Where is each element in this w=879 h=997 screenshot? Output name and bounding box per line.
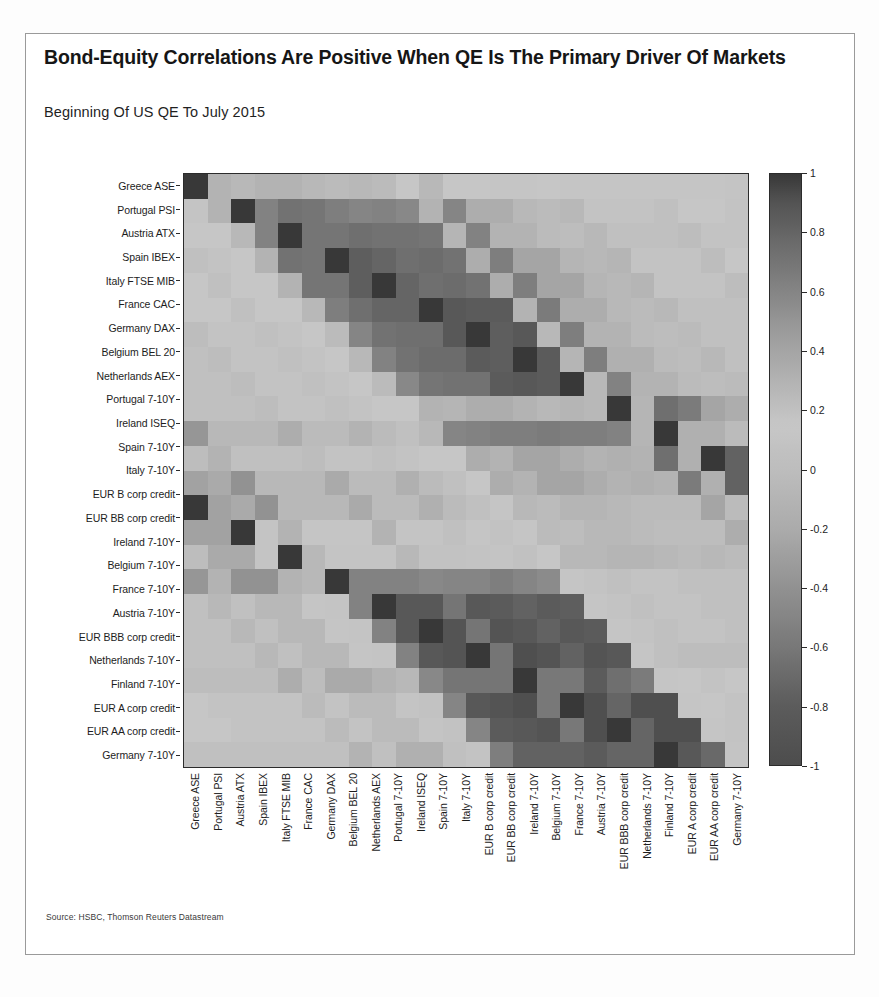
heatmap-cell[interactable] [419,594,443,619]
heatmap-cell[interactable] [208,718,232,743]
heatmap-cell[interactable] [584,643,608,668]
heatmap-cell[interactable] [278,174,302,199]
heatmap-cell[interactable] [560,298,584,323]
heatmap-cell[interactable] [325,545,349,570]
heatmap-cell[interactable] [349,396,373,421]
heatmap-cell[interactable] [466,471,490,496]
heatmap-cell[interactable] [302,199,326,224]
heatmap-cell[interactable] [537,446,561,471]
heatmap-cell[interactable] [325,742,349,767]
heatmap-cell[interactable] [396,471,420,496]
heatmap-cell[interactable] [678,322,702,347]
heatmap-cell[interactable] [255,396,279,421]
heatmap-cell[interactable] [349,298,373,323]
heatmap-cell[interactable] [302,298,326,323]
heatmap-cell[interactable] [372,619,396,644]
heatmap-cell[interactable] [560,569,584,594]
heatmap-cell[interactable] [490,742,514,767]
heatmap-cell[interactable] [466,199,490,224]
heatmap-cell[interactable] [466,619,490,644]
heatmap-cell[interactable] [654,619,678,644]
heatmap-cell[interactable] [231,223,255,248]
heatmap-cell[interactable] [537,569,561,594]
heatmap-cell[interactable] [325,718,349,743]
heatmap-cell[interactable] [443,372,467,397]
heatmap-cell[interactable] [255,471,279,496]
heatmap-cell[interactable] [184,421,208,446]
heatmap-cell[interactable] [419,569,443,594]
heatmap-cell[interactable] [584,421,608,446]
heatmap-cell[interactable] [466,298,490,323]
heatmap-cell[interactable] [560,174,584,199]
heatmap-cell[interactable] [513,495,537,520]
heatmap-cell[interactable] [607,569,631,594]
heatmap-cell[interactable] [490,495,514,520]
heatmap-cell[interactable] [325,569,349,594]
heatmap-cell[interactable] [255,569,279,594]
heatmap-grid[interactable] [184,174,748,767]
heatmap-cell[interactable] [725,372,749,397]
heatmap-cell[interactable] [513,248,537,273]
heatmap-cell[interactable] [419,520,443,545]
heatmap-cell[interactable] [654,668,678,693]
heatmap-cell[interactable] [466,248,490,273]
heatmap-cell[interactable] [678,372,702,397]
heatmap-cell[interactable] [349,594,373,619]
heatmap-cell[interactable] [725,545,749,570]
heatmap-cell[interactable] [208,643,232,668]
heatmap-cell[interactable] [396,742,420,767]
heatmap-cell[interactable] [278,594,302,619]
heatmap-cell[interactable] [255,742,279,767]
heatmap-cell[interactable] [654,298,678,323]
heatmap-cell[interactable] [513,545,537,570]
heatmap-cell[interactable] [349,372,373,397]
heatmap-cell[interactable] [325,421,349,446]
heatmap-cell[interactable] [231,569,255,594]
heatmap-cell[interactable] [325,471,349,496]
heatmap-cell[interactable] [584,372,608,397]
heatmap-cell[interactable] [184,347,208,372]
heatmap-cell[interactable] [278,273,302,298]
heatmap-cell[interactable] [184,693,208,718]
heatmap-cell[interactable] [372,569,396,594]
heatmap-cell[interactable] [372,421,396,446]
heatmap-cell[interactable] [349,446,373,471]
heatmap-cell[interactable] [255,545,279,570]
heatmap-cell[interactable] [631,520,655,545]
heatmap-cell[interactable] [325,298,349,323]
heatmap-cell[interactable] [419,298,443,323]
heatmap-cell[interactable] [513,273,537,298]
heatmap-cell[interactable] [490,199,514,224]
heatmap-cell[interactable] [654,569,678,594]
heatmap-cell[interactable] [513,619,537,644]
heatmap-cell[interactable] [607,223,631,248]
heatmap-cell[interactable] [725,718,749,743]
heatmap-cell[interactable] [396,495,420,520]
heatmap-cell[interactable] [184,372,208,397]
heatmap-cell[interactable] [419,199,443,224]
heatmap-cell[interactable] [607,396,631,421]
heatmap-cell[interactable] [654,199,678,224]
heatmap-cell[interactable] [419,421,443,446]
heatmap-cell[interactable] [725,446,749,471]
heatmap-cell[interactable] [560,619,584,644]
heatmap-cell[interactable] [184,322,208,347]
heatmap-cell[interactable] [701,421,725,446]
heatmap-cell[interactable] [631,372,655,397]
heatmap-cell[interactable] [701,322,725,347]
heatmap-cell[interactable] [607,446,631,471]
heatmap-cell[interactable] [584,569,608,594]
heatmap-cell[interactable] [349,273,373,298]
heatmap-cell[interactable] [701,248,725,273]
heatmap-cell[interactable] [443,248,467,273]
heatmap-cell[interactable] [560,693,584,718]
heatmap-cell[interactable] [419,446,443,471]
heatmap-cell[interactable] [184,545,208,570]
heatmap-cell[interactable] [231,594,255,619]
heatmap-cell[interactable] [584,668,608,693]
heatmap-cell[interactable] [396,248,420,273]
heatmap-cell[interactable] [584,248,608,273]
heatmap-cell[interactable] [725,495,749,520]
heatmap-cell[interactable] [560,372,584,397]
heatmap-cell[interactable] [513,693,537,718]
